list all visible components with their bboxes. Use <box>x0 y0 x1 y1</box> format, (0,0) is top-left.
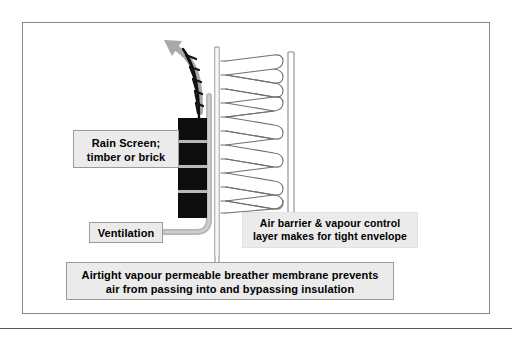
air-barrier-callout: Air barrier & vapour control layer makes… <box>242 212 418 248</box>
air-barrier-line-1: Air barrier & vapour control <box>243 217 417 230</box>
breather-membrane-line-1: Airtight vapour permeable breather membr… <box>67 268 393 282</box>
rain-screen-line-2: timber or brick <box>74 150 178 164</box>
ventilation-line-1: Ventilation <box>90 226 162 240</box>
rain-screen-line-1: Rain Screen; <box>74 136 178 150</box>
page-bottom-rule <box>0 328 512 329</box>
rain-screen-callout: Rain Screen; timber or brick <box>73 130 179 168</box>
diagram-page: Rain Screen; timber or brick Ventilation… <box>0 0 512 343</box>
ventilation-callout: Ventilation <box>89 222 163 243</box>
breather-membrane-line-2: air from passing into and bypassing insu… <box>67 282 393 296</box>
air-barrier-line-2: layer makes for tight envelope <box>243 230 417 243</box>
breather-membrane-callout: Airtight vapour permeable breather membr… <box>66 262 394 300</box>
